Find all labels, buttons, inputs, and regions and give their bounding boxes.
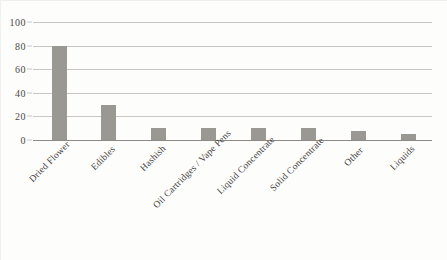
x-axis-label: Edibles (89, 144, 117, 172)
bar (301, 128, 316, 140)
y-tick-label: 0 (21, 135, 27, 146)
y-tick-mark (27, 45, 32, 46)
bar (151, 128, 166, 140)
scan-edge-top (0, 0, 447, 1)
y-tick-mark (27, 116, 32, 117)
y-tick-label: 60 (15, 64, 26, 75)
bar (52, 46, 67, 140)
y-tick-mark (27, 92, 32, 93)
bar-chart: 020406080100 Dried FlowerEdiblesHashishO… (0, 0, 447, 260)
y-tick-label: 80 (15, 40, 26, 51)
bar (401, 134, 416, 140)
x-axis-label: Hashish (138, 143, 168, 173)
y-tick-mark (27, 140, 32, 141)
x-axis-label: Dried Flower (27, 139, 72, 184)
bar (251, 128, 266, 140)
plot-area: 020406080100 (33, 22, 432, 140)
bar (351, 131, 366, 140)
x-axis-label: Liquids (388, 144, 417, 173)
y-tick-mark (27, 69, 32, 70)
bar (101, 105, 116, 140)
bar-series (33, 22, 432, 140)
x-axis-label: Other (342, 145, 365, 168)
axis-baseline (33, 140, 432, 141)
y-tick-label: 20 (15, 111, 26, 122)
y-tick-mark (27, 22, 32, 23)
x-axis-label: Solid Concentrate (268, 135, 326, 193)
x-axis-category-labels: Dried FlowerEdiblesHashishOil Cartridges… (33, 143, 432, 253)
scan-edge-left (0, 0, 1, 260)
y-tick-label: 100 (10, 17, 27, 28)
y-tick-label: 40 (15, 87, 26, 98)
